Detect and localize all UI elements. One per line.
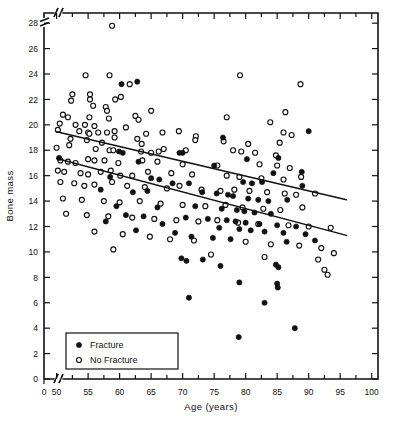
data-point-no-fracture xyxy=(102,158,107,163)
data-point-no-fracture xyxy=(262,255,267,260)
data-point-no-fracture xyxy=(88,97,93,102)
y-tick-label-6: 6 xyxy=(33,298,38,308)
data-point-no-fracture xyxy=(147,234,152,239)
data-point-no-fracture xyxy=(136,117,141,122)
data-point-fracture xyxy=(225,192,230,197)
data-point-no-fracture xyxy=(145,169,150,174)
data-point-fracture xyxy=(179,256,184,261)
x-axis-title: Age (years) xyxy=(184,401,238,412)
data-point-no-fracture xyxy=(57,121,62,126)
data-point-no-fracture xyxy=(55,168,60,173)
data-point-no-fracture xyxy=(110,180,115,185)
data-point-no-fracture xyxy=(123,125,128,130)
data-point-fracture xyxy=(241,179,246,184)
data-point-fracture xyxy=(210,235,215,240)
data-point-no-fracture xyxy=(286,223,291,228)
data-point-fracture xyxy=(205,216,210,221)
x-tick-label-0: 0 xyxy=(42,387,47,397)
y-tick-label-16: 16 xyxy=(29,171,39,181)
data-point-no-fracture xyxy=(237,73,242,78)
data-point-no-fracture xyxy=(283,110,288,115)
data-point-fracture xyxy=(246,196,251,201)
data-point-no-fracture xyxy=(149,108,154,113)
bone-mass-vs-age-chart: 050556065707580859095100 024681012141618… xyxy=(0,0,393,422)
data-point-fracture xyxy=(230,193,235,198)
data-point-no-fracture xyxy=(87,115,92,120)
data-point-fracture xyxy=(220,135,225,140)
data-point-no-fracture xyxy=(287,166,292,171)
data-point-no-fracture xyxy=(86,157,91,162)
data-point-no-fracture xyxy=(106,214,111,219)
x-tick-label-100: 100 xyxy=(365,387,379,397)
data-point-no-fracture xyxy=(325,272,330,277)
data-point-no-fracture xyxy=(277,140,282,145)
data-point-no-fracture xyxy=(68,136,73,141)
data-point-fracture xyxy=(218,263,223,268)
data-point-fracture xyxy=(281,230,286,235)
data-point-no-fracture xyxy=(160,130,165,135)
data-point-no-fracture xyxy=(152,216,157,221)
data-point-no-fracture xyxy=(281,130,286,135)
data-point-no-fracture xyxy=(139,141,144,146)
data-point-fracture xyxy=(193,204,198,209)
data-point-fracture xyxy=(155,205,160,210)
data-point-fracture xyxy=(244,157,249,162)
data-point-no-fracture xyxy=(92,182,97,187)
data-point-no-fracture xyxy=(168,237,173,242)
data-point-fracture xyxy=(103,219,108,224)
data-point-fracture xyxy=(149,176,154,181)
legend-marker-no-fracture xyxy=(77,358,82,363)
data-point-no-fracture xyxy=(253,150,258,155)
data-point-no-fracture xyxy=(111,148,116,153)
data-point-no-fracture xyxy=(107,73,112,78)
data-points xyxy=(54,23,336,339)
data-point-fracture xyxy=(256,197,261,202)
data-point-no-fracture xyxy=(92,229,97,234)
y-tick-label-8: 8 xyxy=(33,273,38,283)
data-point-no-fracture xyxy=(125,183,130,188)
data-point-fracture xyxy=(214,191,219,196)
y-tick-label-24: 24 xyxy=(29,69,39,79)
legend-marker-fracture xyxy=(76,342,81,347)
data-point-fracture xyxy=(183,215,188,220)
data-point-no-fracture xyxy=(62,169,67,174)
data-point-no-fracture xyxy=(64,211,69,216)
data-point-fracture xyxy=(184,258,189,263)
data-point-no-fracture xyxy=(169,171,174,176)
data-point-fracture xyxy=(266,198,271,203)
data-point-no-fracture xyxy=(120,232,125,237)
data-point-no-fracture xyxy=(60,112,65,117)
legend-label-fracture: Fracture xyxy=(90,340,124,350)
legend-label-no-fracture: No Fracture xyxy=(90,355,138,365)
data-point-fracture xyxy=(170,181,175,186)
data-point-no-fracture xyxy=(319,246,324,251)
data-point-no-fracture xyxy=(239,149,244,154)
data-point-no-fracture xyxy=(92,158,97,163)
data-point-no-fracture xyxy=(88,92,93,97)
y-tick-label-10: 10 xyxy=(29,247,39,257)
y-tick-label-2: 2 xyxy=(33,349,38,359)
y-tick-label-14: 14 xyxy=(29,196,39,206)
data-point-no-fracture xyxy=(176,129,181,134)
data-point-no-fracture xyxy=(93,146,98,151)
data-point-no-fracture xyxy=(257,162,262,167)
data-point-fracture xyxy=(123,212,128,217)
data-point-fracture xyxy=(108,174,113,179)
y-axis-title: Bone mass xyxy=(4,170,15,221)
data-point-no-fracture xyxy=(106,116,111,121)
data-point-fracture xyxy=(275,223,280,228)
data-point-no-fracture xyxy=(96,130,101,135)
data-point-no-fracture xyxy=(112,129,117,134)
data-point-no-fracture xyxy=(268,120,273,125)
data-point-no-fracture xyxy=(105,108,110,113)
data-point-fracture xyxy=(200,190,205,195)
x-tick-label-70: 70 xyxy=(178,387,188,397)
data-point-no-fracture xyxy=(73,122,78,127)
x-tick-label-80: 80 xyxy=(241,387,251,397)
data-point-fracture xyxy=(234,207,239,212)
data-point-fracture xyxy=(180,150,185,155)
data-point-fracture xyxy=(293,224,298,229)
data-point-no-fracture xyxy=(110,23,115,28)
data-point-fracture xyxy=(300,183,305,188)
data-point-fracture xyxy=(120,150,125,155)
